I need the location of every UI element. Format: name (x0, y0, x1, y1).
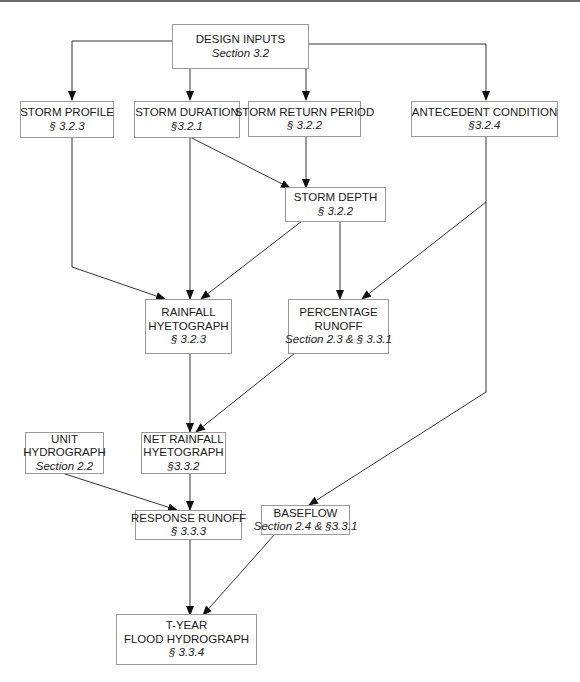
node-ref: § 3.2.2 (318, 205, 353, 219)
node-title-line1: PERCENTAGE (299, 306, 377, 320)
node-title-line1: UNIT (51, 433, 78, 447)
node-storm-profile: STORM PROFILE § 3.2.3 (20, 101, 114, 138)
node-storm-depth: STORM DEPTH § 3.2.2 (285, 187, 386, 222)
node-title-line1: T-YEAR (166, 619, 208, 633)
node-title: STORM DEPTH (294, 191, 378, 205)
node-ref: Section 2.3 & § 3.3.1 (285, 333, 392, 347)
node-title: DESIGN INPUTS (196, 33, 285, 47)
node-net-rainfall-hyetograph: NET RAINFALL HYETOGRAPH §3.3.2 (141, 432, 226, 474)
node-response-runoff: RESPONSE RUNOFF § 3.3.3 (135, 510, 242, 540)
node-ref: § 3.2.2 (287, 119, 322, 133)
node-rainfall-hyetograph: RAINFALL HYETOGRAPH § 3.2.3 (145, 299, 232, 354)
node-title: STORM PROFILE (20, 106, 114, 120)
node-title: STORM DURATION (135, 106, 239, 120)
node-ref: Section 2.2 (36, 460, 94, 474)
node-title: STORM RETURN PERIOD (235, 106, 375, 120)
node-title: RESPONSE RUNOFF (131, 512, 246, 526)
node-design-inputs: DESIGN INPUTS Section 3.2 (172, 24, 309, 69)
node-title-line2: HYETOGRAPH (148, 320, 228, 334)
node-ref: § 3.2.3 (49, 120, 84, 134)
node-title-line2: HYETOGRAPH (143, 446, 223, 460)
node-percentage-runoff: PERCENTAGE RUNOFF Section 2.3 & § 3.3.1 (288, 299, 389, 354)
node-ref: §3.2.1 (171, 120, 203, 134)
node-storm-return-period: STORM RETURN PERIOD § 3.2.2 (248, 101, 361, 137)
node-title: ANTECEDENT CONDITION (412, 106, 557, 120)
node-ref: Section 3.2 (212, 47, 270, 61)
node-title-line2: RUNOFF (315, 320, 363, 334)
node-baseflow: BASEFLOW Section 2.4 & §3.3.1 (261, 505, 350, 535)
node-title-line1: RAINFALL (161, 306, 215, 320)
node-storm-duration: STORM DURATION §3.2.1 (134, 101, 240, 138)
node-ref: §3.3.2 (168, 460, 200, 474)
node-ref: § 3.3.4 (169, 646, 204, 660)
node-title-line2: HYDROGRAPH (23, 446, 105, 460)
node-ref: § 3.2.3 (171, 333, 206, 347)
node-ref: §3.2.4 (469, 119, 501, 133)
node-antecedent-condition: ANTECEDENT CONDITION §3.2.4 (411, 101, 558, 137)
node-title-line1: NET RAINFALL (143, 433, 223, 447)
node-title: BASEFLOW (274, 507, 338, 521)
node-title-line2: FLOOD HYDROGRAPH (124, 633, 249, 647)
node-flood-hydrograph: T-YEAR FLOOD HYDROGRAPH § 3.3.4 (116, 614, 257, 665)
node-ref: Section 2.4 & §3.3.1 (254, 520, 358, 534)
node-unit-hydrograph: UNIT HYDROGRAPH Section 2.2 (25, 432, 104, 474)
node-ref: § 3.3.3 (171, 525, 206, 539)
